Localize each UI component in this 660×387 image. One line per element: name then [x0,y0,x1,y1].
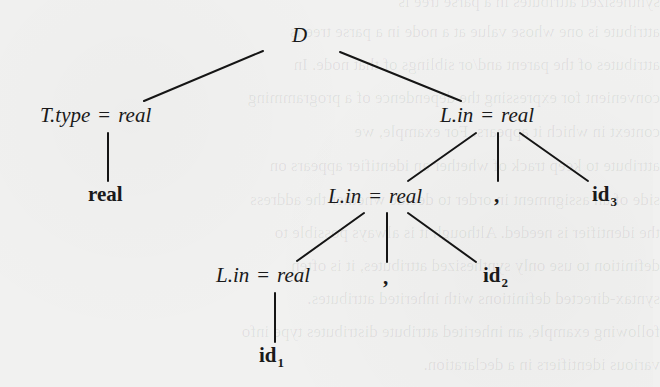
comma-token: , [383,265,388,289]
attr-value: real [389,184,422,208]
root-label: D [292,23,307,47]
node-id2: id2 [483,264,508,289]
id-subscript: 3 [611,194,618,209]
node-comma-mid: , [383,266,388,288]
attr-value: real [277,263,310,287]
id-base: id [483,263,501,287]
token-label: real [88,182,123,206]
equals-sign: = [473,103,501,127]
node-id1: id1 [259,344,284,369]
node-lin-top: L.in=real [440,104,534,126]
edge-lin-mid-id2 [408,213,476,262]
edge-lin-top-lin-mid [408,133,476,181]
edge-lin-top-id3 [520,133,588,181]
node-lin-bot: L.in=real [216,264,310,286]
node-lin-mid: L.in=real [328,185,422,207]
id-base: id [592,182,610,206]
attr-name: L.in [216,263,249,287]
equals-sign: = [361,184,389,208]
node-root-d: D [292,24,307,46]
edge-d-ttype [144,51,263,101]
attr-value: real [501,103,534,127]
node-real-token: real [88,183,123,205]
edge-d-lin-top [340,52,461,101]
edge-lin-mid-lin-bot [297,213,364,261]
node-id3: id3 [592,183,617,208]
id-subscript: 2 [502,275,509,290]
id-subscript: 1 [278,355,285,370]
attr-name: L.in [328,184,361,208]
attr-name: L.in [440,103,473,127]
attr-value: real [118,103,151,127]
equals-sign: = [249,263,277,287]
node-comma-top: , [494,184,499,206]
equals-sign: = [90,103,118,127]
attr-name: T.type [40,103,90,127]
node-ttype: T.type=real [40,104,151,126]
comma-token: , [494,183,499,207]
id-base: id [259,343,277,367]
